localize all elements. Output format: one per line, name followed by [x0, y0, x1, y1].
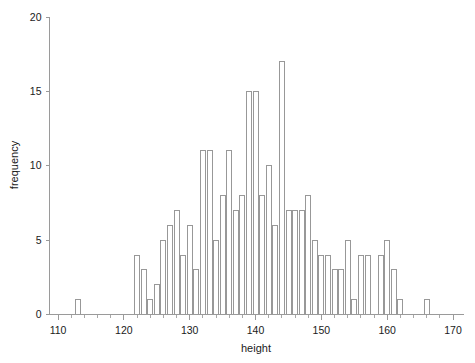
histogram-bar: [200, 151, 205, 315]
histogram-bar: [365, 255, 370, 315]
histogram-bar: [75, 300, 80, 315]
histogram-bar: [293, 210, 298, 314]
histogram-bar: [306, 196, 311, 315]
y-axis-tick-label: 5: [36, 234, 42, 246]
y-axis-tick-label: 15: [30, 85, 42, 97]
x-axis-tick-label: 130: [181, 324, 199, 336]
histogram-bar: [332, 270, 337, 315]
y-axis-title: frequency: [8, 140, 20, 189]
x-axis-tick-label: 160: [378, 324, 396, 336]
histogram-bar: [391, 270, 396, 315]
histogram-bar: [352, 300, 357, 315]
histogram-bar: [339, 270, 344, 315]
histogram-bar: [398, 300, 403, 315]
histogram-bar: [227, 151, 232, 315]
histogram-bar: [220, 196, 225, 315]
histogram-bar: [181, 255, 186, 315]
x-axis-tick-label: 110: [50, 324, 67, 336]
histogram-bar: [207, 151, 212, 315]
histogram-bar: [299, 210, 304, 314]
histogram-bar: [345, 240, 350, 314]
histogram-bar: [260, 196, 265, 315]
histogram-bar: [233, 210, 238, 314]
histogram-bar: [319, 255, 324, 315]
histogram-bar: [214, 240, 219, 314]
y-axis-tick-label: 0: [36, 308, 42, 320]
histogram-plot: 11012013014015016017005101520 height fre…: [0, 0, 475, 363]
x-axis-tick-label: 120: [115, 324, 133, 336]
x-axis-title: height: [241, 342, 271, 354]
y-axis-tick-label: 20: [30, 11, 42, 23]
histogram-bar: [148, 300, 153, 315]
histogram-bar: [174, 210, 179, 314]
histogram-bar: [424, 300, 429, 315]
histogram-bar: [273, 225, 278, 314]
histogram-bar: [194, 270, 199, 315]
histogram-bar: [326, 255, 331, 315]
histogram-bar: [286, 210, 291, 314]
histogram-bar: [358, 255, 363, 315]
histogram-bar: [279, 62, 284, 315]
histogram-bar: [141, 270, 146, 315]
histogram-bar: [161, 240, 166, 314]
histogram-bar: [240, 196, 245, 315]
histogram-figure: 11012013014015016017005101520 height fre…: [0, 0, 475, 363]
x-axis-tick-label: 170: [444, 324, 462, 336]
histogram-bar: [154, 285, 159, 315]
y-axis-tick-label: 10: [30, 159, 42, 171]
bars-layer: [75, 62, 429, 315]
histogram-bar: [312, 240, 317, 314]
histogram-bar: [385, 240, 390, 314]
histogram-bar: [187, 225, 192, 314]
histogram-bar: [168, 225, 173, 314]
histogram-bar: [266, 166, 271, 315]
x-axis-tick-label: 150: [313, 324, 331, 336]
axis-labels-layer: 11012013014015016017005101520: [30, 11, 462, 336]
histogram-bar: [135, 255, 140, 315]
histogram-bar: [253, 91, 258, 314]
histogram-bar: [378, 255, 383, 315]
x-axis-tick-label: 140: [247, 324, 265, 336]
histogram-bar: [247, 91, 252, 314]
